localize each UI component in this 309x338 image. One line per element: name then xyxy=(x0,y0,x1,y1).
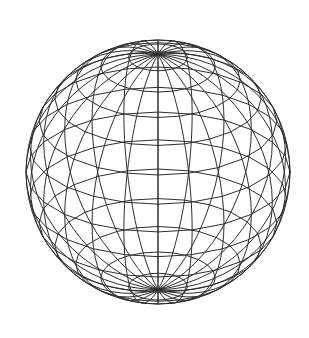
longitude-meridian-6 xyxy=(158,54,290,289)
figure-canvas xyxy=(0,0,309,338)
longitude-meridian-18 xyxy=(26,54,158,289)
longitude-meridians-group xyxy=(26,40,290,304)
wireframe-sphere-svg xyxy=(0,0,309,338)
